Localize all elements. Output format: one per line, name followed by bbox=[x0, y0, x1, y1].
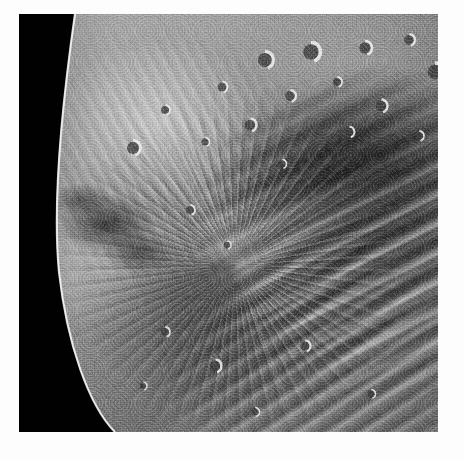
photograph bbox=[19, 14, 438, 432]
image-canvas: Planetary moon surface close-up (graysca… bbox=[0, 0, 464, 460]
photo-margin-right bbox=[438, 0, 464, 460]
photo-margin-left bbox=[0, 0, 19, 460]
photo-margin-top bbox=[0, 0, 464, 14]
film-grain-fine bbox=[19, 14, 438, 432]
photo-margin-bottom bbox=[0, 432, 464, 460]
moon-body bbox=[19, 14, 438, 432]
